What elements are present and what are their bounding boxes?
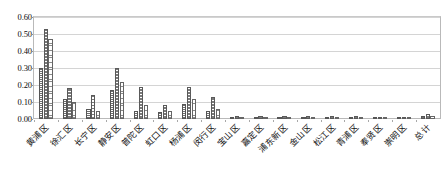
x-axis-tick-mark [225,120,226,122]
bar-group [297,17,321,119]
bar [211,97,215,119]
bar [72,102,76,119]
x-axis-tick-label: 总计 [384,123,433,171]
bar [277,117,281,119]
y-axis-tick-label: 0.30 [2,64,32,72]
bar-group [225,17,249,119]
bar [91,95,95,119]
x-axis-tick-mark [201,120,202,122]
bar [134,111,138,120]
bar-group [273,17,297,119]
bar-group [201,17,225,119]
x-axis-labels: 黄浦区徐汇区长宁区静安区普陀区虹口区杨浦区闵行区宝山区嘉定区浦东新区金山区松江区… [34,120,440,171]
bar [163,105,167,119]
bars-layer [34,17,440,119]
bar [144,105,148,119]
x-axis-tick-mark [34,120,35,122]
bar [349,117,353,119]
x-axis-tick-mark [392,120,393,122]
bar [63,99,67,119]
bar [48,39,52,119]
bar [378,117,382,119]
bar-group [82,17,106,119]
bar [39,68,43,119]
bar [235,116,239,119]
bar [168,111,172,120]
bar [301,117,305,119]
x-axis-tick-mark [249,120,250,122]
x-axis-tick-mark [344,120,345,122]
y-axis-tick-label: 0.00 [2,115,32,123]
bar [354,116,358,119]
bar-chart: 0.600.500.400.300.200.100.00 黄浦区徐汇区长宁区静安… [0,0,447,171]
bar [192,99,196,119]
bar [263,117,267,119]
x-axis-tick-mark [58,120,59,122]
bar [67,88,71,119]
bar-group [153,17,177,119]
bar-group [58,17,82,119]
x-axis-tick-mark [177,120,178,122]
bar-group [344,17,368,119]
bar [421,116,425,119]
bar [110,90,114,119]
bar-group [177,17,201,119]
bar-group [249,17,273,119]
y-axis-tick-label: 0.50 [2,30,32,38]
bar [182,104,186,119]
x-axis-tick-mark [106,120,107,122]
bar [139,87,143,119]
bar [254,117,258,119]
bar-group [34,17,58,119]
bar [187,87,191,119]
y-axis-tick-mark [31,119,33,120]
x-axis-tick-mark [153,120,154,122]
bar [258,116,262,119]
x-axis-tick-mark [273,120,274,122]
bar [216,109,220,119]
bar [430,116,434,119]
bar [330,116,334,119]
y-axis: 0.600.500.400.300.200.100.00 [0,0,32,120]
bar [325,117,329,119]
bar [397,117,401,119]
bar-group [368,17,392,119]
x-axis-tick-mark [297,120,298,122]
bar [426,114,430,119]
bar [402,117,406,119]
bar [230,117,234,119]
bar [359,117,363,119]
bar-group [392,17,416,119]
bar [239,117,243,119]
bar [311,117,315,119]
bar-group [321,17,345,119]
x-axis-tick-mark [130,120,131,122]
bar-group [416,17,440,119]
bar [120,82,124,119]
bar [383,117,387,119]
y-axis-tick-label: 0.20 [2,81,32,89]
x-axis-tick-mark [368,120,369,122]
bar [306,116,310,119]
bar [86,109,90,119]
bar [96,111,100,120]
bar [206,111,210,120]
y-axis-tick-label: 0.60 [2,13,32,21]
bar [335,117,339,119]
bar [282,116,286,119]
bar [44,29,48,119]
bar [115,68,119,119]
bar [373,117,377,119]
bar-group [106,17,130,119]
bar-group [130,17,154,119]
x-axis-tick-mark [321,120,322,122]
x-axis-tick-mark [416,120,417,122]
x-axis-tick-mark [82,120,83,122]
bar [158,112,162,119]
y-axis-tick-label: 0.10 [2,98,32,106]
bar [407,117,411,119]
y-axis-tick-label: 0.40 [2,47,32,55]
bar [287,117,291,119]
